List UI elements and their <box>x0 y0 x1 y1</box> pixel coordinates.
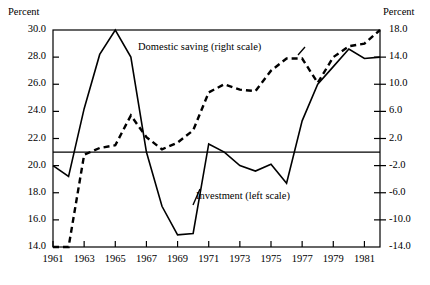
right-tick-label: -6.0 <box>389 186 429 197</box>
left-tick-label: 24.0 <box>12 104 46 115</box>
right-tick-label: -2.0 <box>389 159 429 170</box>
series-label-domestic-saving: Domestic saving (right scale) <box>138 41 261 52</box>
left-tick-label: 18.0 <box>12 186 46 197</box>
left-tick-label: 22.0 <box>12 132 46 143</box>
x-tick-label: 1981 <box>344 253 384 264</box>
right-tick-label: 14.0 <box>389 50 429 61</box>
right-tick-label: 2.0 <box>389 132 429 143</box>
left-tick-label: 16.0 <box>12 213 46 224</box>
right-tick-label: 6.0 <box>389 104 429 115</box>
right-tick-label: -14.0 <box>389 240 429 251</box>
right-tick-label: 18.0 <box>389 23 429 34</box>
right-tick-label: -10.0 <box>389 213 429 224</box>
left-tick-label: 30.0 <box>12 23 46 34</box>
left-tick-label: 28.0 <box>12 50 46 61</box>
left-tick-label: 14.0 <box>12 240 46 251</box>
chart-figure: Percent Percent Domestic saving (right s… <box>0 0 430 285</box>
right-tick-label: 10.0 <box>389 77 429 88</box>
left-tick-label: 20.0 <box>12 159 46 170</box>
series-label-investment: Investment (left scale) <box>196 190 290 201</box>
left-tick-label: 26.0 <box>12 77 46 88</box>
